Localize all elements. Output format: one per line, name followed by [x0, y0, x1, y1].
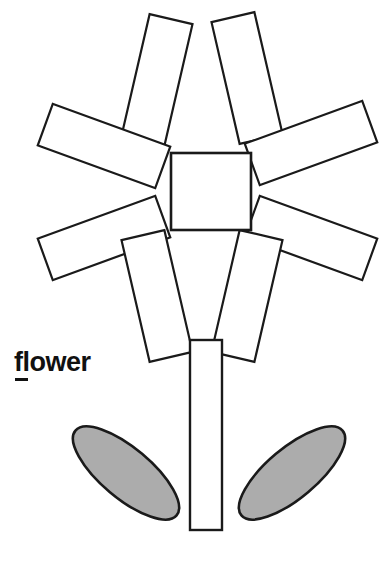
- flower-label-text: flower: [14, 349, 91, 376]
- flower-label: flower: [14, 349, 91, 376]
- petal-bottom-left: [122, 230, 193, 362]
- stem: [190, 340, 222, 530]
- flower-center-square: [171, 153, 251, 230]
- leaf-right: [225, 411, 358, 534]
- leaf-left: [59, 411, 192, 534]
- flower-label-first-letter-underline: [15, 378, 28, 381]
- flower-worksheet-canvas: flower: [0, 0, 381, 565]
- petal-top-right: [212, 12, 283, 144]
- flower-illustration: [0, 0, 381, 565]
- petal-top-left: [122, 14, 193, 146]
